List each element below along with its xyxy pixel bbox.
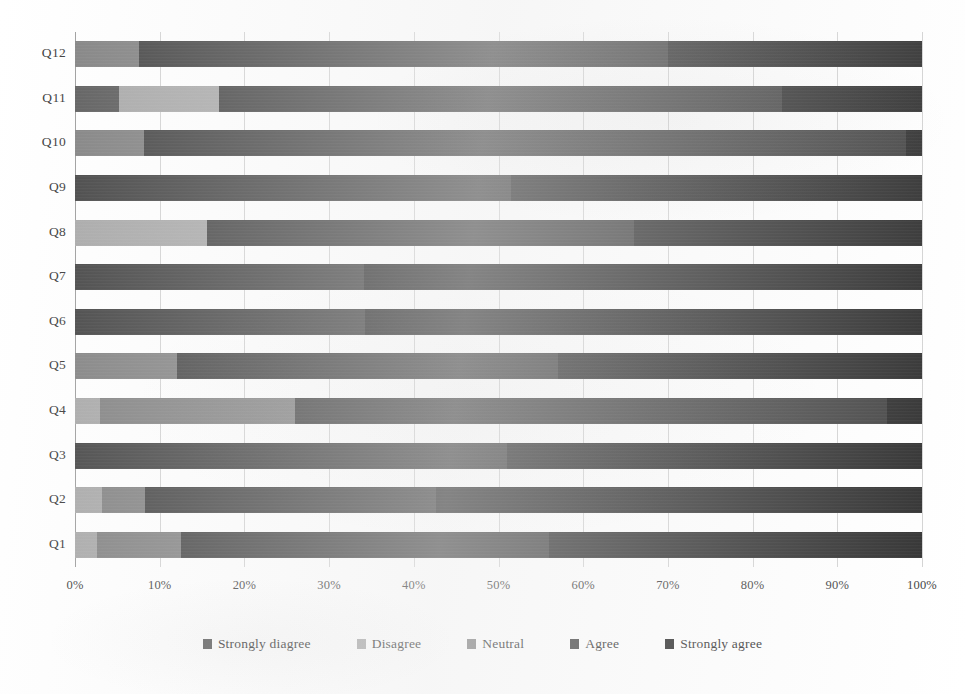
legend-swatch-icon	[467, 639, 476, 649]
bar-segment[interactable]	[295, 398, 887, 424]
y-axis-label-q4: Q4	[10, 402, 66, 418]
x-axis-tick-labels: 0%10%20%30%40%50%60%70%80%90%100%	[75, 578, 922, 598]
legend-swatch-icon	[665, 639, 674, 649]
bar-row[interactable]	[75, 264, 922, 290]
legend-label: Disagree	[372, 636, 422, 652]
bar-row[interactable]	[75, 41, 922, 67]
bar-segment[interactable]	[507, 443, 922, 469]
y-axis-category-labels: Q12Q11Q10Q9Q8Q7Q6Q5Q4Q3Q2Q1	[0, 32, 66, 567]
legend-label: Agree	[585, 636, 619, 652]
bar-row[interactable]	[75, 353, 922, 379]
bar-segment[interactable]	[75, 86, 119, 112]
y-axis-label-q6: Q6	[10, 313, 66, 329]
y-axis-label-q3: Q3	[10, 447, 66, 463]
bar-segment[interactable]	[887, 398, 922, 424]
stacked-bar-chart: Q12Q11Q10Q9Q8Q7Q6Q5Q4Q3Q2Q1 0%10%20%30%4…	[0, 0, 965, 694]
bar-segment[interactable]	[75, 175, 511, 201]
bar-segment[interactable]	[207, 220, 634, 246]
y-axis-label-q1: Q1	[10, 536, 66, 552]
x-tick-40%: 40%	[402, 578, 426, 593]
x-tick-90%: 90%	[826, 578, 850, 593]
y-axis-label-q2: Q2	[10, 491, 66, 507]
bar-segment[interactable]	[75, 487, 102, 513]
bar-segment[interactable]	[906, 130, 922, 156]
y-axis-label-q10: Q10	[10, 134, 66, 150]
bar-segment[interactable]	[145, 487, 436, 513]
bar-segment[interactable]	[436, 487, 922, 513]
y-axis-label-q5: Q5	[10, 357, 66, 373]
legend-item[interactable]: Agree	[570, 636, 619, 652]
bar-row[interactable]	[75, 86, 922, 112]
bar-row[interactable]	[75, 220, 922, 246]
bar-segment[interactable]	[75, 130, 144, 156]
bar-segment[interactable]	[549, 532, 922, 558]
legend-label: Strongly diagree	[218, 636, 311, 652]
bar-segment[interactable]	[365, 309, 922, 335]
x-tick-0%: 0%	[66, 578, 83, 593]
legend-label: Neutral	[482, 636, 524, 652]
bar-row[interactable]	[75, 443, 922, 469]
x-tick-10%: 10%	[148, 578, 172, 593]
legend-item[interactable]: Strongly diagree	[203, 636, 311, 652]
x-tick-70%: 70%	[656, 578, 680, 593]
bar-row[interactable]	[75, 175, 922, 201]
bar-row[interactable]	[75, 532, 922, 558]
bar-segment[interactable]	[782, 86, 922, 112]
bar-segment[interactable]	[75, 41, 139, 67]
bar-row[interactable]	[75, 309, 922, 335]
bar-segment[interactable]	[181, 532, 549, 558]
bar-row[interactable]	[75, 130, 922, 156]
legend-swatch-icon	[357, 639, 366, 649]
gridline-100%	[922, 32, 923, 567]
legend-item[interactable]: Strongly agree	[665, 636, 762, 652]
bar-segment[interactable]	[75, 220, 207, 246]
bar-segment[interactable]	[75, 264, 364, 290]
x-tick-60%: 60%	[571, 578, 595, 593]
bar-segment[interactable]	[75, 398, 100, 424]
bar-segment[interactable]	[139, 41, 668, 67]
bar-segment[interactable]	[75, 443, 507, 469]
legend-label: Strongly agree	[680, 636, 762, 652]
bar-segment[interactable]	[219, 86, 782, 112]
bar-segment[interactable]	[634, 220, 922, 246]
bar-segment[interactable]	[75, 309, 365, 335]
bar-segment[interactable]	[511, 175, 922, 201]
bar-segment[interactable]	[668, 41, 922, 67]
plot-area	[75, 32, 922, 567]
bar-row[interactable]	[75, 487, 922, 513]
x-tick-30%: 30%	[317, 578, 341, 593]
chart-legend: Strongly diagreeDisagreeNeutralAgreeStro…	[0, 636, 965, 652]
x-tick-80%: 80%	[741, 578, 765, 593]
bar-segment[interactable]	[558, 353, 922, 379]
bar-segment[interactable]	[100, 398, 295, 424]
x-tick-100%: 100%	[907, 578, 937, 593]
bar-segment[interactable]	[144, 130, 906, 156]
y-axis-label-q7: Q7	[10, 268, 66, 284]
legend-swatch-icon	[203, 639, 212, 649]
bar-segment[interactable]	[75, 532, 97, 558]
bar-segment[interactable]	[119, 86, 219, 112]
bar-segment[interactable]	[97, 532, 181, 558]
x-tick-20%: 20%	[233, 578, 257, 593]
y-axis-label-q11: Q11	[10, 90, 66, 106]
y-axis-label-q9: Q9	[10, 179, 66, 195]
bar-segment[interactable]	[75, 353, 177, 379]
legend-item[interactable]: Neutral	[467, 636, 524, 652]
legend-item[interactable]: Disagree	[357, 636, 422, 652]
x-tick-50%: 50%	[487, 578, 511, 593]
legend-swatch-icon	[570, 639, 579, 649]
bar-row[interactable]	[75, 398, 922, 424]
bar-segment[interactable]	[177, 353, 558, 379]
y-axis-label-q12: Q12	[10, 45, 66, 61]
bar-segment[interactable]	[102, 487, 145, 513]
bar-segment[interactable]	[364, 264, 922, 290]
y-axis-label-q8: Q8	[10, 224, 66, 240]
